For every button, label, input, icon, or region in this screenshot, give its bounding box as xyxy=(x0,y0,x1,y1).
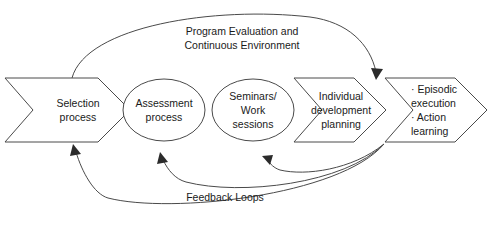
node-label-execution: · Episodic execution · Action learning xyxy=(411,82,487,138)
annotation-program-evaluation: Program Evaluation and Continuous Enviro… xyxy=(152,24,332,52)
node-label-assessment: Assessment process xyxy=(119,96,209,124)
node-label-individual-development: Individual development planning xyxy=(297,89,385,131)
feedback-curve-to-assessment xyxy=(163,144,384,188)
feedback-arrowhead-selection xyxy=(70,144,81,156)
node-label-selection: Selection process xyxy=(33,96,123,124)
feedback-arrowhead-assessment xyxy=(157,152,168,164)
program-evaluation-arrowhead xyxy=(371,68,383,80)
annotation-feedback-loops: Feedback Loops xyxy=(155,190,295,204)
feedback-arrowhead-seminars xyxy=(262,155,273,165)
node-label-seminars: Seminars/ Work sessions xyxy=(208,89,298,131)
process-flow-diagram: Selection process Assessment process Sem… xyxy=(0,0,492,229)
